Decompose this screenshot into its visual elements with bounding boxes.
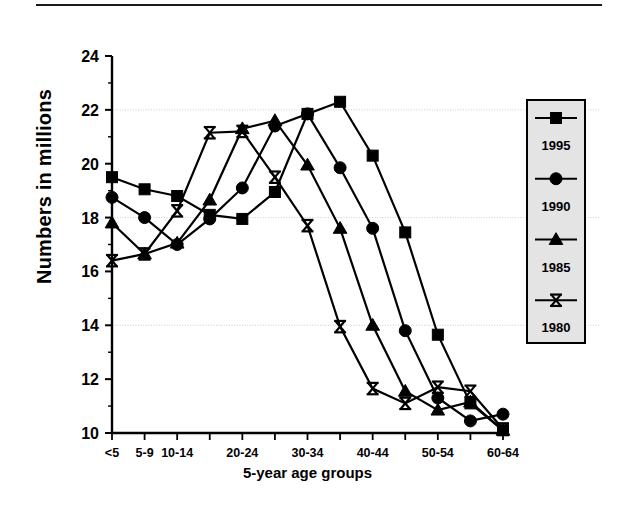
x-axis-title: 5-year age groups [243,464,372,481]
series-1995 [107,96,509,436]
series-1985 [105,114,510,435]
x-tick-label: 5-9 [136,446,154,460]
x-axis-ticks: <55-910-1420-2430-3440-4450-5460-64 [105,433,519,460]
data-point-triangle [268,114,282,126]
legend-label: 1990 [542,199,571,214]
y-tick-label: 12 [81,371,99,388]
data-point-circle [106,191,118,203]
series-line [112,102,503,431]
data-point-square [237,213,248,224]
data-point-circle [204,213,216,225]
data-point-square [551,113,562,124]
x-tick-label: 40-44 [357,446,389,460]
x-tick-label: <5 [105,446,119,460]
data-point-triangle [366,318,380,330]
y-tick-label: 16 [81,263,99,280]
data-point-square [107,172,118,183]
series-1990 [106,108,509,427]
legend: 1995199019851980 [527,100,585,343]
y-tick-label: 18 [81,210,99,227]
data-point-triangle [333,222,347,234]
data-point-square [432,329,443,340]
data-point-circle [302,108,314,120]
chart-plot-area: 1012141618202224<55-910-1420-2430-3440-4… [0,0,621,507]
x-tick-label: 20-24 [226,446,258,460]
data-point-triangle [398,384,412,396]
data-point-circle [334,162,346,174]
legend-label: 1985 [542,260,571,275]
data-point-circle [399,325,411,337]
y-tick-label: 20 [81,156,99,173]
x-tick-label: 50-54 [422,446,454,460]
data-point-circle [236,182,248,194]
y-tick-label: 10 [81,425,99,442]
data-point-square [269,186,280,197]
legend-label: 1995 [542,138,571,153]
series-line [112,131,503,429]
data-point-circle [550,173,562,185]
x-tick-label: 30-34 [292,446,324,460]
data-point-circle [497,408,509,420]
legend-label: 1980 [542,320,571,335]
line-chart-svg: 1012141618202224<55-910-1420-2430-3440-4… [0,0,621,507]
y-tick-label: 22 [81,102,99,119]
data-point-triangle [203,193,217,205]
data-point-square [139,184,150,195]
data-point-square [335,96,346,107]
series-1980 [106,126,509,435]
data-point-circle [367,222,379,234]
figure-root: Numbers in millions 1012141618202224<55-… [0,0,621,507]
x-tick-label: 60-64 [487,446,519,460]
y-tick-label: 24 [81,48,99,65]
x-tick-label: 10-14 [161,446,193,460]
data-point-circle [139,212,151,224]
data-point-circle [464,415,476,427]
data-point-square [400,227,411,238]
y-axis-ticks: 1012141618202224 [81,48,112,442]
y-tick-label: 14 [81,317,99,334]
data-point-square [367,150,378,161]
